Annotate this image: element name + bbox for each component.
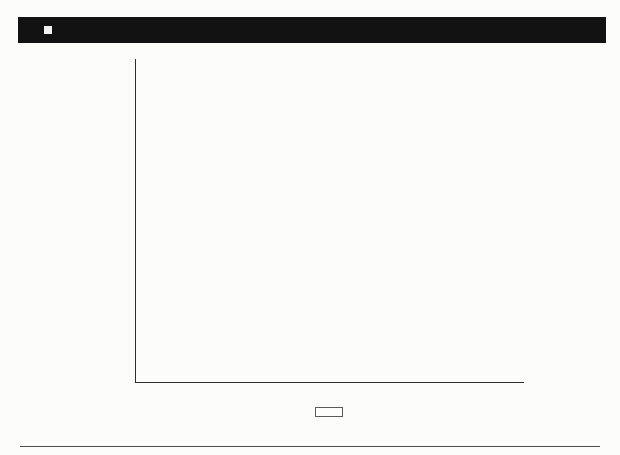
legend [135,407,523,417]
bottom-rule [20,446,600,447]
legend-box [315,407,343,417]
plot-area [135,59,524,383]
bar-chart [0,0,620,455]
figure-page [0,0,620,455]
